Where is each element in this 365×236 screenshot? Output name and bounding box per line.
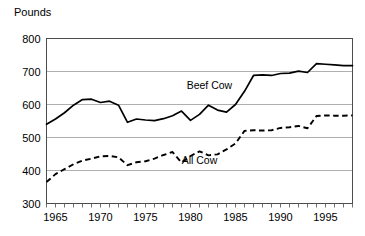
x-axis-tick-label: 1965	[43, 211, 67, 223]
x-axis-tick-label: 1985	[223, 211, 247, 223]
line-chart: 300400500600700800 196519701975198019851…	[0, 0, 365, 236]
chart-container: Pounds 300400500600700800 19651970197519…	[0, 0, 365, 236]
x-axis-tick-labels: 1965197019751980198519901995	[43, 211, 337, 223]
x-axis-tick-label: 1990	[268, 211, 292, 223]
series-annotation-all-cow: All Cow	[182, 154, 218, 166]
series-annotation-beef-cow: Beef Cow	[187, 79, 233, 91]
x-axis-tickmarks	[47, 204, 353, 208]
series-line-beef-cow	[47, 64, 353, 125]
x-axis-tick-label: 1995	[313, 211, 337, 223]
series-line-all-cow	[47, 115, 353, 182]
y-axis-tick-label: 700	[22, 66, 40, 78]
y-axis-tick-label: 400	[22, 165, 40, 177]
x-axis-tick-label: 1970	[88, 211, 112, 223]
series-annotations: Beef CowAll Cow	[182, 79, 233, 166]
y-axis-tick-label: 300	[22, 198, 40, 210]
y-axis-tick-label: 600	[22, 99, 40, 111]
x-axis-tick-label: 1975	[133, 211, 157, 223]
plot-frame	[47, 39, 353, 204]
y-axis-tick-label: 500	[22, 132, 40, 144]
x-axis-tick-label: 1980	[178, 211, 202, 223]
y-axis-tick-labels: 300400500600700800	[22, 33, 40, 210]
y-axis-tick-label: 800	[22, 33, 40, 45]
